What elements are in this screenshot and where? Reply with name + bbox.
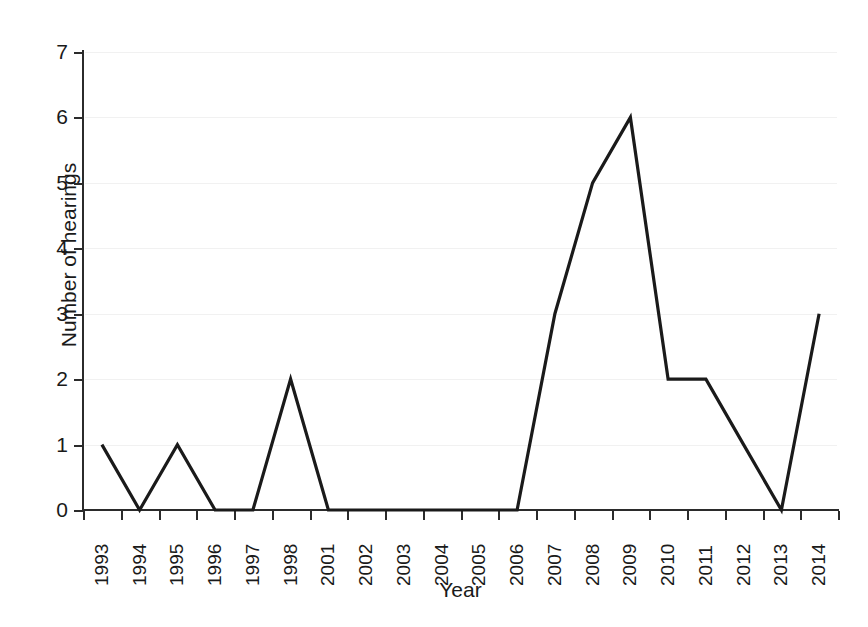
x-tick-mark xyxy=(838,511,840,520)
y-tick-label: 1 xyxy=(40,434,68,455)
x-tick-label-2001: 2001 xyxy=(316,524,340,586)
x-tick-label-2012: 2012 xyxy=(732,524,756,586)
x-tick-mark xyxy=(498,511,500,520)
y-tick-mark xyxy=(74,117,83,119)
gridline-5 xyxy=(85,183,837,184)
x-tick-mark xyxy=(763,511,765,520)
x-tick-mark xyxy=(800,511,802,520)
x-tick-mark xyxy=(272,511,274,520)
y-tick-mark xyxy=(74,52,83,54)
x-tick-mark xyxy=(687,511,689,520)
y-axis-line xyxy=(82,50,84,512)
y-tick-label: 6 xyxy=(40,106,68,127)
y-tick-label: 3 xyxy=(40,303,68,324)
x-tick-label-2006: 2006 xyxy=(505,524,529,586)
y-tick-mark xyxy=(74,314,83,316)
x-tick-label-1995: 1995 xyxy=(165,524,189,586)
x-tick-mark xyxy=(347,511,349,520)
x-tick-label-1993: 1993 xyxy=(90,524,114,586)
x-tick-mark xyxy=(649,511,651,520)
y-tick-mark xyxy=(74,183,83,185)
x-tick-label-2002: 2002 xyxy=(354,524,378,586)
x-tick-mark xyxy=(159,511,161,520)
x-tick-mark xyxy=(423,511,425,520)
y-tick-label: 4 xyxy=(40,237,68,258)
x-tick-mark xyxy=(385,511,387,520)
y-tick-mark xyxy=(74,379,83,381)
x-tick-label-2005: 2005 xyxy=(467,524,491,586)
x-tick-label-2003: 2003 xyxy=(392,524,416,586)
gridline-3 xyxy=(85,314,837,315)
y-tick-mark xyxy=(74,510,83,512)
x-tick-label-2011: 2011 xyxy=(694,524,718,586)
x-tick-mark xyxy=(725,511,727,520)
x-tick-mark xyxy=(234,511,236,520)
x-tick-label-1997: 1997 xyxy=(241,524,265,586)
x-tick-label-2014: 2014 xyxy=(807,524,831,586)
x-axis-title: Year xyxy=(83,578,838,602)
x-tick-mark xyxy=(574,511,576,520)
x-tick-label-2008: 2008 xyxy=(581,524,605,586)
x-tick-label-2013: 2013 xyxy=(769,524,793,586)
x-tick-label-1998: 1998 xyxy=(279,524,303,586)
y-tick-label: 7 xyxy=(40,41,68,62)
x-tick-mark xyxy=(121,511,123,520)
x-tick-mark xyxy=(310,511,312,520)
x-tick-label-2010: 2010 xyxy=(656,524,680,586)
x-tick-mark xyxy=(461,511,463,520)
gridline-1 xyxy=(85,445,837,446)
x-tick-mark xyxy=(83,511,85,520)
x-tick-mark xyxy=(196,511,198,520)
gridline-7 xyxy=(85,52,837,53)
x-tick-mark xyxy=(536,511,538,520)
y-tick-label: 5 xyxy=(40,172,68,193)
gridline-4 xyxy=(85,248,837,249)
x-tick-label-1996: 1996 xyxy=(203,524,227,586)
x-tick-label-2009: 2009 xyxy=(618,524,642,586)
x-tick-mark xyxy=(612,511,614,520)
gridline-6 xyxy=(85,117,837,118)
x-tick-label-1994: 1994 xyxy=(128,524,152,586)
y-tick-label: 2 xyxy=(40,368,68,389)
x-tick-label-2007: 2007 xyxy=(543,524,567,586)
y-tick-label: 0 xyxy=(40,499,68,520)
x-tick-label-2004: 2004 xyxy=(430,524,454,586)
y-tick-mark xyxy=(74,248,83,250)
y-tick-mark xyxy=(74,445,83,447)
line-chart-figure: Number of hearings 01234567 199319941995… xyxy=(0,0,868,627)
gridline-2 xyxy=(85,379,837,380)
